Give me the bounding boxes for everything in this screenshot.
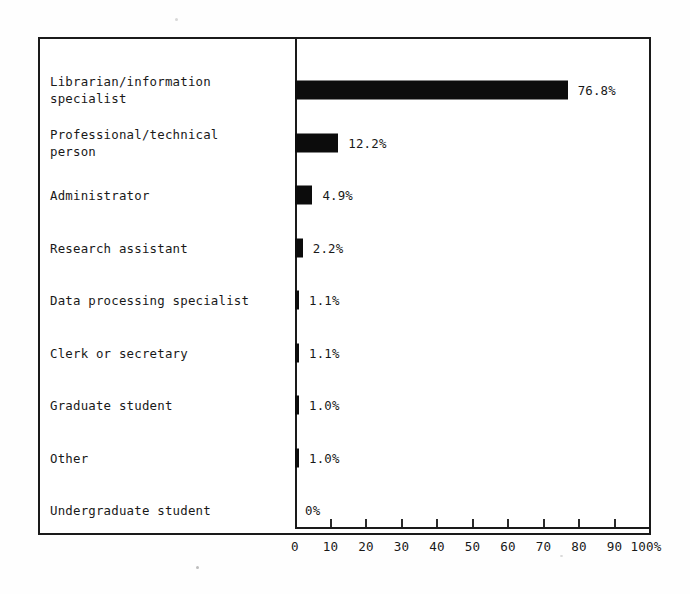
bar-value-label: 0% <box>305 502 320 519</box>
category-label: Other <box>50 449 290 466</box>
x-tick-label: 20 <box>358 539 374 554</box>
category-label: Graduate student <box>50 397 290 414</box>
category-label: Research assistant <box>50 239 290 256</box>
x-tick-label: 10 <box>323 539 339 554</box>
x-tick <box>365 519 367 527</box>
bar <box>295 186 312 205</box>
bar-value-label: 1.0% <box>309 449 340 466</box>
category-label: Data processing specialist <box>50 292 290 309</box>
bar-value-label: 1.1% <box>309 344 340 361</box>
bar-value-label: 12.2% <box>348 134 386 151</box>
x-tick-label: 50 <box>465 539 481 554</box>
x-tick <box>401 519 403 527</box>
bar <box>295 133 338 152</box>
bar-value-label: 1.1% <box>309 292 340 309</box>
bar-value-label: 2.2% <box>313 239 344 256</box>
scan-speck <box>560 555 563 557</box>
category-label: Clerk or secretary <box>50 344 290 361</box>
bar <box>295 448 299 467</box>
x-tick-label: 100% <box>630 539 661 554</box>
x-tick-label: 0 <box>291 539 299 554</box>
x-tick <box>472 519 474 527</box>
bar <box>295 291 299 310</box>
bar <box>295 343 299 362</box>
chart-page: Librarian/information specialist76.8%Pro… <box>0 0 690 594</box>
x-tick <box>543 519 545 527</box>
x-tick-label: 30 <box>394 539 410 554</box>
category-label: Librarian/information specialist <box>50 73 290 107</box>
x-tick-label: 40 <box>429 539 445 554</box>
x-tick <box>436 519 438 527</box>
scan-speck <box>175 18 178 21</box>
x-tick-label: 60 <box>500 539 516 554</box>
bar <box>295 81 568 100</box>
x-tick <box>614 519 616 527</box>
bar <box>295 238 303 257</box>
bar-value-label: 4.9% <box>322 187 353 204</box>
bar <box>295 396 299 415</box>
category-label: Professional/technical person <box>50 126 290 160</box>
x-tick <box>578 519 580 527</box>
x-tick-label: 80 <box>571 539 587 554</box>
category-label: Administrator <box>50 187 290 204</box>
x-tick-label: 70 <box>536 539 552 554</box>
x-tick <box>507 519 509 527</box>
x-axis-line <box>295 527 651 529</box>
bar-value-label: 76.8% <box>578 82 616 99</box>
x-tick <box>330 519 332 527</box>
scan-speck <box>196 566 199 569</box>
x-tick-label: 90 <box>607 539 623 554</box>
bar-value-label: 1.0% <box>309 397 340 414</box>
category-label: Undergraduate student <box>50 502 290 519</box>
